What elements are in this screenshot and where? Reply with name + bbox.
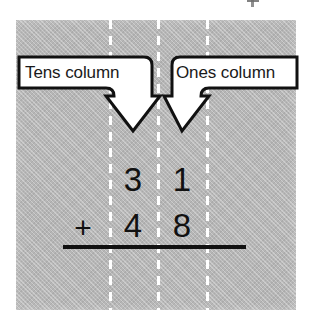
addend-one-tens-digit: 3 [118, 163, 148, 196]
diagram-canvas: Tens column Ones column 3 1 + 4 8 [0, 0, 312, 320]
addend-two-tens-digit: 4 [118, 209, 148, 242]
plus-operator: + [71, 213, 95, 243]
addend-two-ones-digit: 8 [167, 209, 197, 242]
ones-column-label: Ones column [176, 64, 275, 81]
tens-column-label: Tens column [25, 64, 119, 81]
addend-one-ones-digit: 1 [167, 163, 197, 196]
sum-horizontal-rule [63, 245, 246, 249]
callout-layer [0, 0, 312, 320]
